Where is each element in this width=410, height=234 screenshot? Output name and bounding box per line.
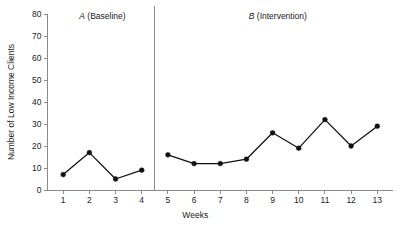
data-point <box>139 168 144 173</box>
y-tick-label: 30 <box>32 119 42 129</box>
data-point <box>375 124 380 129</box>
x-tick-label: 9 <box>270 195 275 205</box>
phase-label-A: A (Baseline) <box>78 11 125 21</box>
data-point <box>192 161 197 166</box>
phase-description-B: (Intervention) <box>254 11 307 21</box>
y-axis-title: Number of Low Income Clients <box>6 44 16 160</box>
y-tick-label: 60 <box>32 53 42 63</box>
data-point <box>218 161 223 166</box>
data-point <box>61 172 66 177</box>
series-line-phase-B <box>168 120 377 164</box>
y-axis-ticks: 01020304050607080 <box>32 9 47 195</box>
series-line-phase-A <box>63 153 142 179</box>
x-tick-label: 4 <box>139 195 144 205</box>
x-axis-title: Weeks <box>182 210 208 220</box>
phase-label-B: B (Intervention) <box>249 11 307 21</box>
chart-figure: 01020304050607080 12345678910111213 A (B… <box>0 0 410 234</box>
x-tick-label: 12 <box>346 195 356 205</box>
x-tick-label: 5 <box>166 195 171 205</box>
y-tick-label: 0 <box>37 185 42 195</box>
data-point <box>270 130 275 135</box>
data-point <box>113 177 118 182</box>
y-tick-label: 80 <box>32 9 42 19</box>
phase-description-A: (Baseline) <box>85 11 126 21</box>
phase-labels-group: A (Baseline)B (Intervention) <box>78 11 307 21</box>
x-tick-label: 10 <box>294 195 304 205</box>
x-tick-label: 13 <box>373 195 383 205</box>
y-tick-label: 10 <box>32 163 42 173</box>
data-point <box>87 150 92 155</box>
y-tick-label: 70 <box>32 31 42 41</box>
x-tick-label: 1 <box>61 195 66 205</box>
x-tick-label: 6 <box>192 195 197 205</box>
x-tick-label: 7 <box>218 195 223 205</box>
data-point <box>349 144 354 149</box>
x-tick-label: 11 <box>321 195 330 205</box>
y-tick-label: 40 <box>32 97 42 107</box>
data-point <box>244 157 249 162</box>
data-point <box>296 146 301 151</box>
data-point <box>166 152 171 157</box>
x-axis-ticks: 12345678910111213 <box>61 190 382 205</box>
data-point <box>323 117 328 122</box>
y-tick-label: 20 <box>32 141 42 151</box>
x-tick-label: 3 <box>113 195 118 205</box>
line-chart-svg: 01020304050607080 12345678910111213 A (B… <box>0 0 410 234</box>
x-tick-label: 8 <box>244 195 249 205</box>
x-tick-label: 2 <box>87 195 92 205</box>
data-series-group <box>61 117 380 181</box>
y-tick-label: 50 <box>32 75 42 85</box>
